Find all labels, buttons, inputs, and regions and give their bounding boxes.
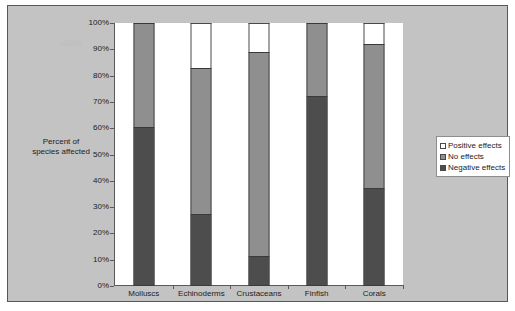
y-axis-tick-label: 50% — [63, 151, 109, 159]
stacked-bar — [133, 23, 154, 286]
bar-segment-negative-effects — [133, 128, 154, 286]
x-axis-tick-label: Finfish — [305, 290, 329, 298]
legend-item: Negative effects — [440, 162, 505, 173]
bar-segment-positive-effects — [364, 23, 385, 44]
bar-segment-positive-effects — [191, 23, 212, 68]
y-axis-tick-label: 100% — [63, 19, 109, 27]
bar-segment-no-effects — [364, 44, 385, 189]
x-axis-tick-mark — [345, 285, 346, 289]
x-axis-tick-label: Molluscs — [128, 290, 159, 298]
y-axis-tick-label: 90% — [63, 45, 109, 53]
legend-swatch-no-effects-icon — [440, 154, 446, 160]
stacked-bar — [306, 23, 327, 286]
bar-group — [230, 23, 288, 286]
legend-item-label: Positive effects — [448, 142, 502, 150]
bar-segment-negative-effects — [248, 257, 269, 286]
y-axis-tick-label: 30% — [63, 203, 109, 211]
bar-segment-negative-effects — [191, 215, 212, 286]
chart-screenshot: Percent ofspecies affected 100%90%80%70%… — [0, 0, 515, 311]
stacked-bar — [248, 23, 269, 286]
y-axis-tick-label: 0% — [63, 282, 109, 290]
bar-segment-no-effects — [248, 52, 269, 257]
y-axis-tick-label: 60% — [63, 124, 109, 132]
bars-layer — [115, 23, 403, 286]
stacked-bar — [191, 23, 212, 286]
x-axis-tick-label: Corals — [363, 290, 386, 298]
chart-plate: Percent ofspecies affected 100%90%80%70%… — [7, 5, 508, 302]
chart-legend: Positive effectsNo effectsNegative effec… — [436, 136, 510, 177]
legend-swatch-positive-effects-icon — [440, 143, 446, 149]
x-axis-tick-mark — [288, 285, 289, 289]
y-axis-tick-labels: 100%90%80%70%60%50%40%30%20%10%0% — [63, 23, 109, 286]
bar-group — [173, 23, 231, 286]
y-axis-tick-label: 10% — [63, 256, 109, 264]
x-axis-tick-labels: MolluscsEchinodermsCrustaceansFinfishCor… — [115, 290, 403, 304]
bar-segment-negative-effects — [364, 189, 385, 286]
bar-segment-positive-effects — [248, 23, 269, 52]
stacked-bar — [364, 23, 385, 286]
y-axis-tick-label: 40% — [63, 177, 109, 185]
legend-item: Positive effects — [440, 140, 505, 151]
legend-item: No effects — [440, 151, 505, 162]
y-axis-tick-label: 20% — [63, 229, 109, 237]
legend-item-label: Negative effects — [448, 164, 505, 172]
x-axis-tick-label: Crustaceans — [237, 290, 282, 298]
y-axis-tick-label: 70% — [63, 98, 109, 106]
bar-group — [288, 23, 346, 286]
bar-segment-no-effects — [306, 23, 327, 97]
bar-group — [345, 23, 403, 286]
legend-swatch-negative-effects-icon — [440, 165, 446, 171]
x-axis-tick-label: Echinoderms — [178, 290, 225, 298]
x-axis-tick-mark — [403, 285, 404, 289]
y-axis-tick-mark — [110, 286, 114, 287]
bar-segment-negative-effects — [306, 97, 327, 286]
bar-segment-no-effects — [133, 23, 154, 128]
y-axis-tick-label: 80% — [63, 72, 109, 80]
x-axis-tick-mark — [230, 285, 231, 289]
bar-group — [115, 23, 173, 286]
legend-item-label: No effects — [448, 153, 484, 161]
x-axis-tick-mark — [173, 285, 174, 289]
bar-segment-no-effects — [191, 68, 212, 215]
